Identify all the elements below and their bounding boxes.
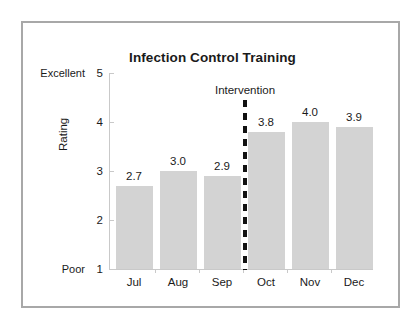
y-tick-4 bbox=[109, 122, 114, 123]
y-scale-low-label: Poor bbox=[35, 264, 85, 275]
plot-area: 5 4 3 2 1 Excellent Poor Rating 2.7 3.0 … bbox=[23, 23, 402, 310]
bar-aug[interactable] bbox=[160, 171, 197, 269]
x-label-aug: Aug bbox=[156, 277, 200, 289]
x-tick-2 bbox=[199, 269, 200, 273]
intervention-line bbox=[243, 100, 247, 270]
bar-sep[interactable] bbox=[204, 176, 241, 269]
bar-value-jul: 2.7 bbox=[112, 171, 156, 183]
bar-jul[interactable] bbox=[116, 186, 153, 269]
bar-value-sep: 2.9 bbox=[200, 161, 244, 173]
bar-oct[interactable] bbox=[248, 132, 285, 269]
y-tick-label-2: 2 bbox=[89, 215, 103, 227]
y-scale-high-label: Excellent bbox=[35, 68, 85, 79]
bar-value-aug: 3.0 bbox=[156, 156, 200, 168]
x-tick-1 bbox=[155, 269, 156, 273]
y-axis-title: Rating bbox=[57, 118, 69, 151]
chart-frame: Infection Control Training 5 4 3 2 1 Exc… bbox=[21, 21, 400, 308]
x-tick-4 bbox=[287, 269, 288, 273]
bar-value-oct: 3.8 bbox=[244, 117, 288, 129]
y-tick-label-1: 1 bbox=[89, 264, 103, 276]
x-label-nov: Nov bbox=[288, 277, 332, 289]
x-tick-5 bbox=[331, 269, 332, 273]
x-label-sep: Sep bbox=[200, 277, 244, 289]
y-tick-5 bbox=[109, 73, 114, 74]
bar-dec[interactable] bbox=[336, 127, 373, 269]
y-tick-1 bbox=[109, 269, 114, 270]
x-label-dec: Dec bbox=[332, 277, 376, 289]
y-tick-2 bbox=[109, 220, 114, 221]
y-tick-label-3: 3 bbox=[89, 166, 103, 178]
x-axis-line bbox=[109, 269, 373, 270]
y-tick-label-5: 5 bbox=[89, 68, 103, 80]
bar-value-nov: 4.0 bbox=[288, 107, 332, 119]
intervention-label: Intervention bbox=[173, 85, 317, 97]
y-tick-label-4: 4 bbox=[89, 117, 103, 129]
bar-value-dec: 3.9 bbox=[332, 112, 376, 124]
bar-nov[interactable] bbox=[292, 122, 329, 269]
x-label-oct: Oct bbox=[244, 277, 288, 289]
x-label-jul: Jul bbox=[112, 277, 156, 289]
